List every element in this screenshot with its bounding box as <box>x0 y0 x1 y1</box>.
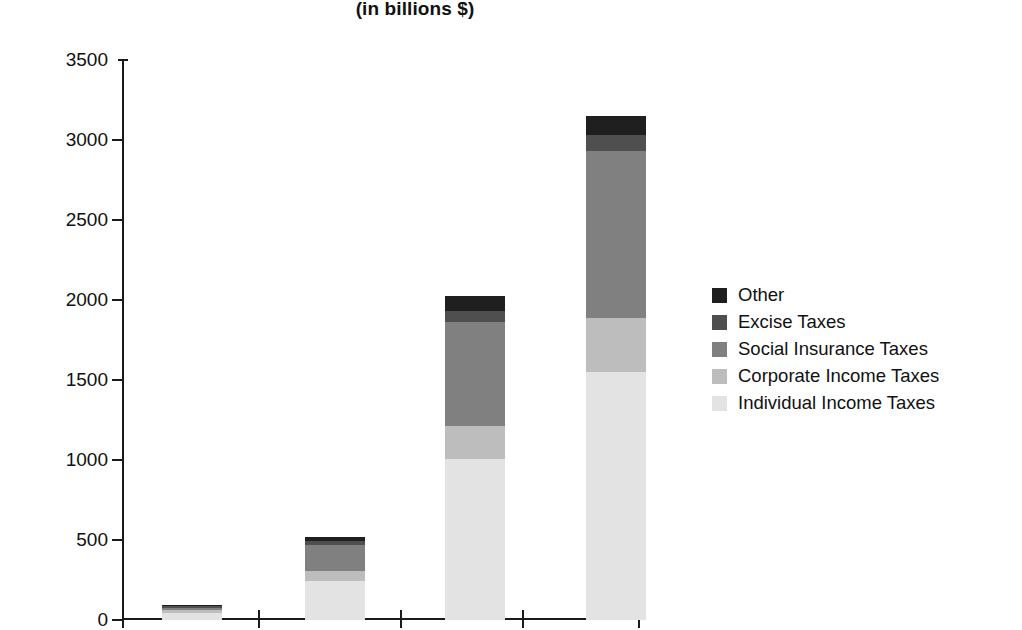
legend-swatch-icon <box>712 315 727 330</box>
legend-label: Other <box>738 286 784 305</box>
stacked-bar-chart: (in billions $) 350030002500200015001000… <box>0 0 1022 630</box>
bar-column <box>305 537 365 620</box>
bar-segment <box>305 545 365 570</box>
bar-segment <box>305 571 365 581</box>
bar-segment <box>445 311 505 322</box>
bar-segment <box>586 372 646 620</box>
legend-swatch-icon <box>712 342 727 357</box>
bar-segment <box>445 459 505 620</box>
bar-segment <box>445 296 505 311</box>
y-axis-label: 500 <box>30 529 108 551</box>
bar-segment <box>586 151 646 317</box>
y-axis-label: 3000 <box>30 129 108 151</box>
legend-label: Excise Taxes <box>738 313 846 332</box>
bar-column <box>586 116 646 620</box>
chart-title: (in billions $) <box>0 0 830 20</box>
plot-area <box>122 60 638 620</box>
bar-segment <box>445 426 505 459</box>
bar-segment <box>162 613 222 620</box>
bar-segment <box>586 116 646 135</box>
legend-item: Social Insurance Taxes <box>712 336 1012 363</box>
legend-swatch-icon <box>712 288 727 303</box>
y-axis-label: 1500 <box>30 369 108 391</box>
bar-segment <box>586 135 646 151</box>
bar-segment <box>305 581 365 620</box>
bar-column <box>162 605 222 620</box>
bar-column <box>445 296 505 620</box>
y-axis-label: 2500 <box>30 209 108 231</box>
legend-label: Social Insurance Taxes <box>738 340 928 359</box>
y-axis-label: 1000 <box>30 449 108 471</box>
chart-legend: OtherExcise TaxesSocial Insurance TaxesC… <box>712 282 1012 417</box>
legend-item: Excise Taxes <box>712 309 1012 336</box>
legend-label: Individual Income Taxes <box>738 394 935 413</box>
legend-item: Individual Income Taxes <box>712 390 1012 417</box>
bar-segment <box>445 322 505 426</box>
legend-label: Corporate Income Taxes <box>738 367 939 386</box>
y-axis-label: 2000 <box>30 289 108 311</box>
legend-item: Corporate Income Taxes <box>712 363 1012 390</box>
y-axis-label: 3500 <box>30 49 108 71</box>
y-axis-label: 0 <box>30 609 108 630</box>
bar-segment <box>586 318 646 372</box>
legend-swatch-icon <box>712 396 727 411</box>
legend-item: Other <box>712 282 1012 309</box>
legend-swatch-icon <box>712 369 727 384</box>
